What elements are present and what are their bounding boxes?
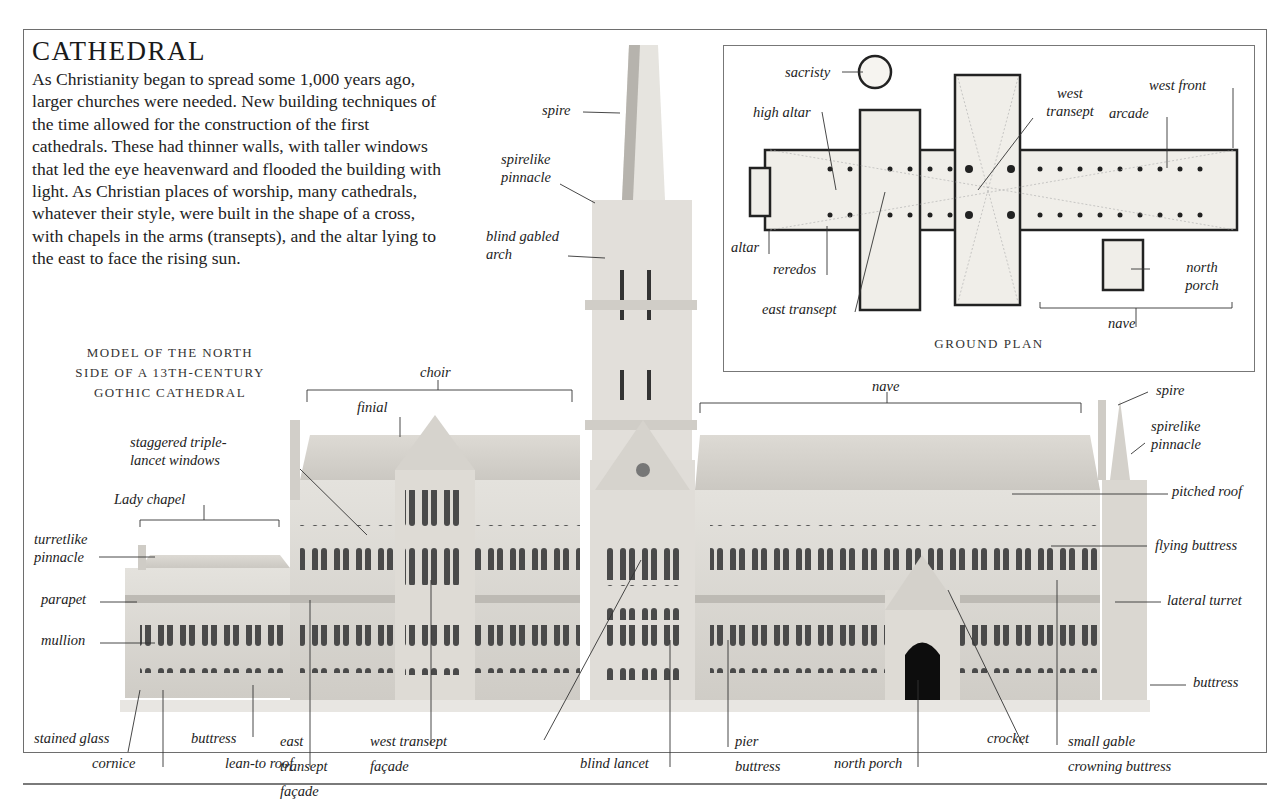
plan-label-west-front: west front bbox=[1149, 76, 1206, 94]
plan-label-west-transept: west transept bbox=[1040, 84, 1100, 120]
plan-label-arcade: arcade bbox=[1109, 104, 1149, 122]
plan-label-north-porch: north porch bbox=[1172, 258, 1232, 294]
plan-label-altar: altar bbox=[731, 238, 759, 256]
ground-plan-title: GROUND PLAN bbox=[723, 336, 1255, 352]
plan-label-nave: nave bbox=[1108, 314, 1135, 332]
plan-label-reredos: reredos bbox=[773, 260, 816, 278]
plan-label-east-transept: east transept bbox=[762, 300, 837, 318]
plan-label-sacristy: sacristy bbox=[785, 63, 830, 81]
ground-plan-drawing bbox=[0, 0, 1277, 810]
plan-label-high-altar: high altar bbox=[753, 103, 811, 121]
